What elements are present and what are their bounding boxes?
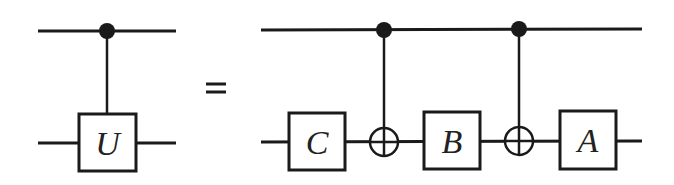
lhs-circuit: U bbox=[38, 23, 176, 171]
cnot1-control-dot bbox=[376, 22, 392, 38]
lhs-control-dot bbox=[99, 23, 115, 39]
gate-b-label: B bbox=[442, 123, 463, 160]
rhs-top-wire bbox=[261, 29, 642, 30]
gate-u-label: U bbox=[95, 125, 122, 162]
circuit-diagram: U C B A bbox=[0, 0, 674, 185]
gate-c-label: C bbox=[306, 124, 329, 161]
rhs-circuit: C B A bbox=[261, 21, 642, 170]
cnot2-control-dot bbox=[511, 21, 527, 37]
gate-a-label: A bbox=[576, 122, 599, 159]
equals-sign bbox=[206, 84, 226, 92]
